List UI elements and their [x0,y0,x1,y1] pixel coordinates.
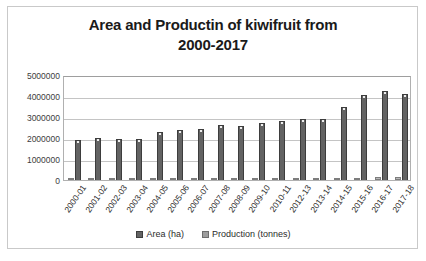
bar-cluster [64,77,84,180]
legend-swatch-area-icon [136,231,143,238]
legend-item-production: Production (tonnes) [202,229,291,239]
y-axis: 500000040000003000000200000010000000 [15,69,63,189]
bar-production [75,140,81,180]
legend-item-area: Area (ha) [136,229,184,239]
y-axis-tick-label: 4000000 [27,92,60,102]
chart-title-line-2: 2000-2017 [178,36,248,53]
y-axis-tick-label: 1000000 [27,155,60,165]
chart-title: Area and Productin of kiwifruit from 200… [38,15,388,55]
y-axis-tick-label: 5000000 [27,71,60,81]
bar-area [68,178,74,180]
chart-container: Area and Productin of kiwifruit from 200… [7,6,418,249]
chart-title-line-1: Area and Productin of kiwifruit from [89,16,338,33]
legend-label-area: Area (ha) [146,229,184,239]
y-axis-tick-label: 0 [55,176,60,186]
y-axis-tick-label: 3000000 [27,113,60,123]
legend-swatch-production-icon [202,231,209,238]
chart-legend: Area (ha) Production (tonnes) [8,229,419,239]
legend-label-production: Production (tonnes) [212,229,291,239]
x-axis: 2000-012001-022002-032003-042004-052005-… [63,183,411,231]
y-axis-tick-label: 2000000 [27,134,60,144]
